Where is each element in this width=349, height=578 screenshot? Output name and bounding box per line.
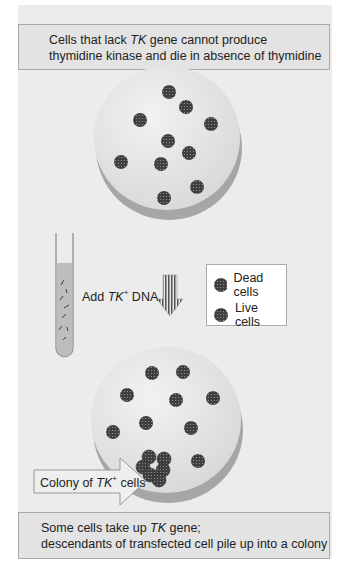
add-dna-label: Add TK+ DNA [82, 288, 158, 304]
diagram-graphics [0, 0, 349, 578]
legend: Dead cells Live cells [206, 264, 287, 326]
live-cell-icon [213, 307, 229, 323]
down-arrow-icon [157, 275, 183, 316]
petri-dish-before [94, 66, 242, 220]
colony-callout-label: Colony of TK+ cells [40, 474, 145, 490]
dead-cell-icon [213, 277, 227, 293]
caption-bottom-line1: Some cells take up TK gene; [41, 520, 329, 536]
caption-bottom: Some cells take up TK gene; descendants … [18, 512, 330, 559]
test-tube-icon [56, 233, 73, 356]
caption-bottom-line2: descendants of transfected cell pile up … [41, 536, 329, 552]
legend-item-dead: Dead cells [213, 271, 286, 299]
legend-item-live: Live cells [213, 301, 286, 329]
